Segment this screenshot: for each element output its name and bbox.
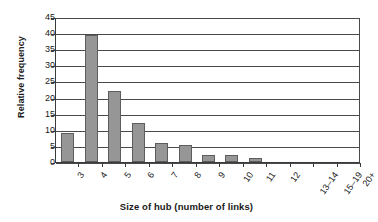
- gridline: [56, 34, 360, 35]
- x-axis-tick-label: 4: [98, 170, 109, 180]
- x-axis-tick-mark: [290, 163, 291, 167]
- bar: [179, 145, 192, 162]
- gridline: [56, 115, 360, 116]
- bar: [202, 155, 215, 162]
- gridline: [56, 147, 360, 148]
- x-axis-tick-mark: [337, 163, 338, 167]
- bar: [85, 35, 98, 162]
- y-axis-tick-label: 20: [15, 94, 55, 103]
- x-axis-tick-label: 12: [288, 170, 302, 184]
- bar: [108, 91, 121, 162]
- x-axis-tick-label: 20+: [361, 170, 378, 188]
- x-axis-tick-mark: [78, 163, 79, 167]
- plot-inner: [56, 18, 360, 162]
- gridline: [56, 131, 360, 132]
- plot-area: [55, 18, 360, 163]
- gridline: [56, 82, 360, 83]
- x-axis-tick-label: 5: [122, 170, 133, 180]
- y-axis-tick-mark: [51, 163, 55, 164]
- y-axis-tick-label: 40: [15, 29, 55, 38]
- x-axis-tick-label: 8: [192, 170, 203, 180]
- x-axis-tick-mark: [172, 163, 173, 167]
- bar: [61, 133, 74, 162]
- y-axis-tick-label: 5: [15, 142, 55, 151]
- y-axis-tick-label: 10: [15, 126, 55, 135]
- y-axis-tick-label: 0: [15, 158, 55, 167]
- gridline: [56, 66, 360, 67]
- y-axis-tick-label: 30: [15, 61, 55, 70]
- bar: [155, 143, 168, 162]
- x-axis-tick-mark: [149, 163, 150, 167]
- x-axis-tick-mark: [219, 163, 220, 167]
- x-axis-tick-mark: [266, 163, 267, 167]
- x-axis-tick-label: 6: [145, 170, 156, 180]
- x-axis-tick-mark: [243, 163, 244, 167]
- x-axis-tick-label: 7: [169, 170, 180, 180]
- y-axis-tick-label: 45: [15, 13, 55, 22]
- bar: [249, 158, 262, 162]
- x-axis-tick-mark: [125, 163, 126, 167]
- x-axis-tick-label: 10: [241, 170, 255, 184]
- y-axis-tick-label: 25: [15, 77, 55, 86]
- gridline: [56, 99, 360, 100]
- x-axis-tick-label: 3: [75, 170, 86, 180]
- x-axis-tick-label: 13–14: [318, 170, 341, 196]
- x-axis-tick-mark: [196, 163, 197, 167]
- x-axis-tick-mark: [313, 163, 314, 167]
- bar: [225, 155, 238, 162]
- x-axis-tick-mark: [360, 163, 361, 167]
- y-axis-tick-label: 35: [15, 45, 55, 54]
- gridline: [56, 50, 360, 51]
- x-axis-tick-mark: [102, 163, 103, 167]
- gridline: [56, 18, 360, 19]
- y-axis-tick-label: 15: [15, 110, 55, 119]
- x-axis-tick-label: 11: [264, 170, 278, 183]
- bar: [132, 123, 145, 162]
- x-axis-title: Size of hub (number of links): [0, 201, 373, 212]
- x-axis-tick-label: 9: [216, 170, 227, 180]
- plot-right-border: [359, 18, 360, 162]
